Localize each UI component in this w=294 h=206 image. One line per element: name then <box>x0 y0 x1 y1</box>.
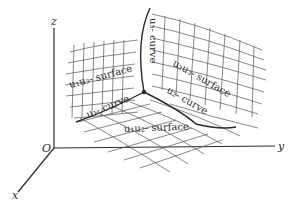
z-axis-label: z <box>50 15 57 28</box>
u1u3-surface-label: u₁u₃- surface <box>68 62 134 89</box>
u3-curve-label: u₃- curve <box>148 18 159 63</box>
x-axis-label: x <box>12 189 19 202</box>
origin-label: O <box>42 142 51 155</box>
y-axis-label: y <box>277 140 285 153</box>
u2u3-surface-grid <box>152 14 266 117</box>
u1u2-surface-label: u₁u₂- surface <box>124 121 189 134</box>
coordinate-surfaces-diagram: z y x O u₁u₃- surface u₂u₃- surface u₁u₂… <box>0 0 294 206</box>
u2-curve-label: u₂- curve <box>165 84 210 116</box>
u1-curve-label: u₁- curve <box>85 93 131 120</box>
intersection-point <box>143 91 146 94</box>
